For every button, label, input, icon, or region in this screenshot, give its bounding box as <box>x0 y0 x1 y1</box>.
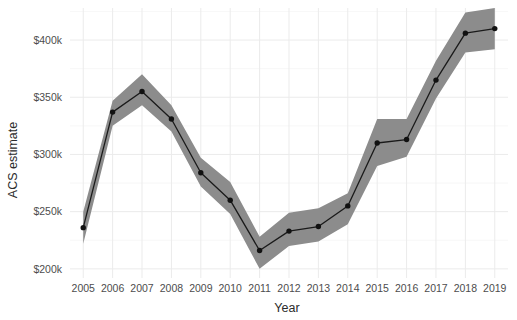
data-point-2007 <box>139 89 144 94</box>
data-point-2011 <box>257 248 262 253</box>
x-tick-label-2010: 2010 <box>219 282 243 294</box>
y-tick-label-$300k: $300k <box>33 148 62 160</box>
x-tick-label-2017: 2017 <box>424 282 448 294</box>
x-tick-label-2006: 2006 <box>101 282 125 294</box>
x-tick-label-2015: 2015 <box>366 282 390 294</box>
data-point-2015 <box>374 140 379 145</box>
x-tick-label-2016: 2016 <box>395 282 419 294</box>
y-tick-label-$400k: $400k <box>33 34 62 46</box>
x-tick-label-2007: 2007 <box>130 282 154 294</box>
data-point-2009 <box>198 170 203 175</box>
y-axis-title: ACS estimate <box>6 122 20 198</box>
data-point-2012 <box>286 228 291 233</box>
x-tick-label-2009: 2009 <box>189 282 213 294</box>
data-point-2018 <box>463 30 468 35</box>
acs-estimate-line-chart: $200k$250k$300k$350k$400k 20052006200720… <box>0 0 517 320</box>
y-tick-label-$350k: $350k <box>33 91 62 103</box>
data-point-2017 <box>433 77 438 82</box>
data-point-2016 <box>404 137 409 142</box>
x-tick-label-2011: 2011 <box>248 282 271 294</box>
x-tick-label-2014: 2014 <box>336 282 360 294</box>
x-tick-label-2005: 2005 <box>72 282 96 294</box>
x-tick-label-2013: 2013 <box>307 282 331 294</box>
y-tick-label-$200k: $200k <box>33 263 62 275</box>
x-tick-label-2008: 2008 <box>160 282 184 294</box>
chart-background <box>0 0 517 320</box>
data-point-2019 <box>492 26 497 31</box>
data-point-2014 <box>345 203 350 208</box>
data-point-2006 <box>110 109 115 114</box>
x-tick-label-2019: 2019 <box>483 282 507 294</box>
x-tick-label-2012: 2012 <box>277 282 301 294</box>
data-point-2010 <box>228 198 233 203</box>
y-tick-label-$250k: $250k <box>33 205 62 217</box>
chart-canvas: $200k$250k$300k$350k$400k 20052006200720… <box>0 0 517 320</box>
data-point-2013 <box>316 224 321 229</box>
data-point-2005 <box>81 225 86 230</box>
x-axis-tick-labels: 2005200620072008200920102011201220132014… <box>72 282 507 294</box>
data-point-2008 <box>169 116 174 121</box>
x-tick-label-2018: 2018 <box>454 282 478 294</box>
x-axis-title: Year <box>274 301 299 315</box>
